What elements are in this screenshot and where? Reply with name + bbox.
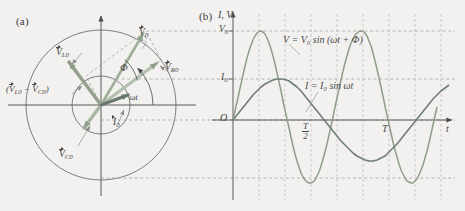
phasor-v-c0 (84, 105, 101, 128)
label-vl-minus-vc: (VL0 − VC0) (6, 85, 49, 94)
panel-a-graphics (8, 16, 455, 196)
label-i-0: I0 (113, 118, 120, 128)
panel-b-letter: (b) (199, 10, 212, 22)
y-tick-label-v0: V0 (219, 25, 228, 35)
label-phase-angle-phi: Φ (120, 63, 128, 73)
leader-v-l0 (72, 53, 82, 64)
label-v-r0: VR0 (165, 63, 178, 73)
leader-vl-minus-vc (72, 86, 82, 94)
construction-line-parallel-vl (146, 31, 161, 60)
x-tick-half-period-denominator: 2 (302, 132, 309, 141)
figure-graphics (0, 0, 465, 211)
panel-b-origin-label: O (220, 113, 227, 123)
equation-current: I = I₀ sin ωt (305, 80, 353, 91)
phasor-vl-minus-vc (77, 72, 101, 105)
panel-a-letter: (a) (16, 15, 29, 27)
equation-voltage: V = V₀ sin (ωt + Φ) (283, 34, 363, 45)
label-v-l0: VL0 (56, 48, 69, 58)
x-tick-label-half-period: T 2 (302, 122, 309, 141)
panel-b-x-axis-label: t (446, 124, 449, 134)
panel-b-y-axis-label: I, V (218, 10, 232, 20)
leader-voltage-equation (289, 44, 300, 55)
physics-figure-ac-phasor-and-waveforms: (a) VL0 VC0 VR0 V0 I0 (VL0 − VC0) Φ ωt (… (0, 0, 465, 211)
label-v-0: V0 (139, 28, 148, 38)
y-tick-label-i0: I0 (221, 73, 228, 83)
construction-line-parallel-vr (86, 31, 146, 76)
x-tick-label-period: T (382, 124, 388, 134)
label-angle-omega-t: ωt (129, 93, 138, 102)
label-v-c0: VC0 (59, 150, 73, 160)
